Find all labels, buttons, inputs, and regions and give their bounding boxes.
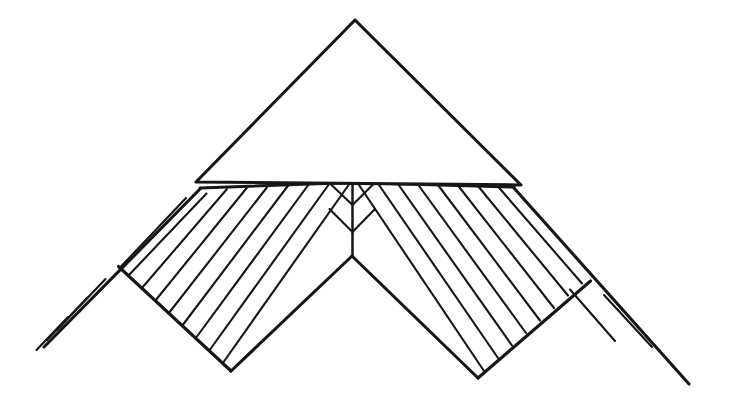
- figure-canvas: [0, 0, 736, 413]
- line-drawing-svg: [0, 0, 736, 413]
